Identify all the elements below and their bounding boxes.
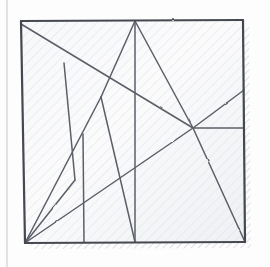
- hand-drawn-square-figure: [0, 0, 270, 267]
- short-vertical-bar: [83, 134, 84, 242]
- sketch-canvas-root: Hand-drawn square with internal line seg…: [0, 0, 270, 267]
- bottom-edge: [25, 242, 245, 243]
- square-fill-group: [21, 20, 245, 243]
- top-edge: [21, 20, 243, 21]
